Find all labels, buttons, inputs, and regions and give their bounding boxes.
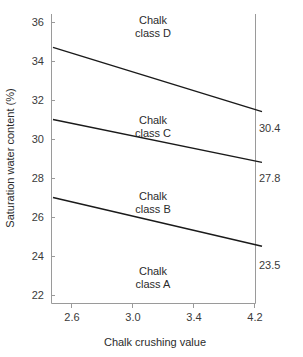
end-label-27-8: 27.8 — [259, 172, 280, 184]
y-tick-label-26: 26 — [22, 211, 44, 223]
annotation-chalk-class-b-line2: class B — [98, 203, 208, 216]
annotation-chalk-class-b-line1: Chalk — [98, 190, 208, 203]
plot-canvas — [0, 0, 303, 357]
y-tick-label-32: 32 — [22, 94, 44, 106]
x-tick-label-3-4: 3.4 — [178, 311, 210, 323]
annotation-chalk-class-a: Chalk class A — [98, 265, 208, 291]
y-tick-label-24: 24 — [22, 250, 44, 262]
end-label-30-4: 30.4 — [259, 122, 280, 134]
y-tick-label-22: 22 — [22, 289, 44, 301]
annotation-chalk-class-c-line1: Chalk — [98, 114, 208, 127]
annotation-chalk-class-a-line1: Chalk — [98, 265, 208, 278]
x-axis-title: Chalk crushing value — [40, 336, 270, 348]
annotation-chalk-class-d: Chalk class D — [98, 14, 208, 40]
y-tick-label-30: 30 — [22, 133, 44, 145]
y-tick-label-34: 34 — [22, 55, 44, 67]
x-tick-label-4-2: 4.2 — [239, 311, 271, 323]
annotation-chalk-class-a-line2: class A — [98, 278, 208, 291]
y-tick-label-28: 28 — [22, 172, 44, 184]
annotation-chalk-class-d-line1: Chalk — [98, 14, 208, 27]
end-label-23-5: 23.5 — [259, 259, 280, 271]
annotation-chalk-class-b: Chalk class B — [98, 190, 208, 216]
y-axis-title: Saturation water content (%) — [4, 28, 16, 288]
annotation-chalk-class-c-line2: class C — [98, 127, 208, 140]
x-tick-label-2-6: 2.6 — [56, 311, 88, 323]
y-tick-label-36: 36 — [22, 16, 44, 28]
annotation-chalk-class-c: Chalk class C — [98, 114, 208, 140]
annotation-chalk-class-d-line2: class D — [98, 27, 208, 40]
chart-figure: 36 34 32 30 28 26 24 22 2.6 3.0 3.4 4.2 … — [0, 0, 303, 357]
x-tick-label-3-0: 3.0 — [117, 311, 149, 323]
